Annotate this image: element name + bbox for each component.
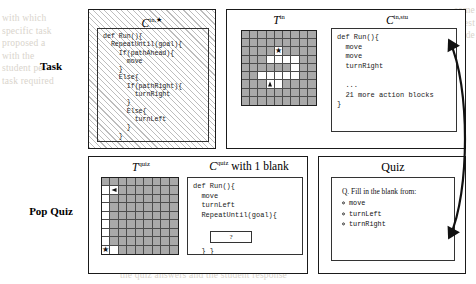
task-grid-cell[interactable] xyxy=(300,39,308,47)
quiz-grid-cell[interactable] xyxy=(170,229,178,237)
quiz-grid-cell[interactable] xyxy=(161,246,169,254)
task-grid-cell[interactable] xyxy=(291,39,299,47)
task-grid-cell[interactable] xyxy=(258,80,266,88)
quiz-grid-cell[interactable] xyxy=(161,203,169,211)
task-grid-cell[interactable] xyxy=(283,72,291,80)
task-grid-cell[interactable] xyxy=(267,72,275,80)
task-grid-cell[interactable] xyxy=(291,97,299,105)
task-grid-cell[interactable] xyxy=(275,80,283,88)
task-grid-cell[interactable] xyxy=(283,97,291,105)
task-grid-cell[interactable] xyxy=(242,31,250,39)
quiz-grid-cell[interactable] xyxy=(144,195,152,203)
quiz-grid-cell[interactable] xyxy=(119,195,127,203)
task-grid-cell[interactable] xyxy=(250,89,258,97)
task-grid-cell[interactable] xyxy=(267,31,275,39)
task-grid[interactable]: ★ xyxy=(241,30,317,106)
quiz-grid-cell[interactable] xyxy=(170,203,178,211)
task-grid-cell[interactable] xyxy=(250,64,258,72)
quiz-grid-cell[interactable] xyxy=(102,212,110,220)
task-grid-cell[interactable] xyxy=(300,31,308,39)
quiz-grid-cell[interactable] xyxy=(136,186,144,194)
quiz-grid-cell[interactable] xyxy=(153,237,161,245)
quiz-grid-cell[interactable] xyxy=(144,220,152,228)
task-grid-cell[interactable] xyxy=(250,56,258,64)
task-grid-cell[interactable] xyxy=(300,97,308,105)
quiz-grid-cell[interactable] xyxy=(136,237,144,245)
quiz-grid-cell[interactable] xyxy=(161,237,169,245)
quiz-grid-cell[interactable] xyxy=(153,178,161,186)
quiz-grid-cell[interactable] xyxy=(136,178,144,186)
task-grid-cell[interactable] xyxy=(275,72,283,80)
quiz-grid-cell[interactable] xyxy=(119,212,127,220)
radio-icon-move[interactable] xyxy=(342,202,345,205)
quiz-grid-cell[interactable] xyxy=(170,220,178,228)
task-grid-cell[interactable] xyxy=(258,47,266,55)
task-grid-cell[interactable] xyxy=(275,56,283,64)
task-grid-cell[interactable] xyxy=(267,56,275,64)
task-grid-cell[interactable] xyxy=(258,31,266,39)
quiz-grid-cell[interactable] xyxy=(110,220,118,228)
task-grid-cell[interactable] xyxy=(300,80,308,88)
task-grid-cell[interactable] xyxy=(267,89,275,97)
quiz-grid-cell[interactable] xyxy=(144,203,152,211)
task-grid-cell[interactable] xyxy=(291,64,299,72)
task-grid-cell[interactable] xyxy=(242,89,250,97)
task-grid-cell[interactable] xyxy=(308,31,316,39)
quiz-grid-cell[interactable] xyxy=(102,203,110,211)
quiz-grid-cell[interactable] xyxy=(144,212,152,220)
task-grid-cell[interactable] xyxy=(291,31,299,39)
quiz-grid-cell[interactable] xyxy=(110,178,118,186)
task-grid-cell[interactable]: ★ xyxy=(275,47,283,55)
quiz-grid-cell[interactable] xyxy=(127,237,135,245)
quiz-grid-cell[interactable] xyxy=(153,246,161,254)
quiz-grid-cell[interactable] xyxy=(110,203,118,211)
quiz-grid-cell[interactable] xyxy=(110,237,118,245)
quiz-grid-cell[interactable] xyxy=(136,203,144,211)
task-grid-cell[interactable] xyxy=(267,80,275,88)
task-grid-cell[interactable] xyxy=(291,89,299,97)
quiz-grid-cell[interactable] xyxy=(110,212,118,220)
radio-icon-turnright[interactable] xyxy=(342,223,345,226)
quiz-grid-cell[interactable] xyxy=(161,212,169,220)
task-grid-cell[interactable] xyxy=(283,47,291,55)
task-grid-cell[interactable] xyxy=(275,31,283,39)
quiz-grid-cell[interactable] xyxy=(153,203,161,211)
quiz-grid-cell[interactable] xyxy=(110,195,118,203)
quiz-grid-cell[interactable] xyxy=(144,178,152,186)
task-grid-cell[interactable] xyxy=(308,56,316,64)
quiz-grid[interactable]: ★ xyxy=(101,177,179,255)
task-grid-cell[interactable] xyxy=(242,64,250,72)
task-grid-cell[interactable] xyxy=(242,97,250,105)
task-grid-cell[interactable] xyxy=(283,80,291,88)
task-grid-cell[interactable] xyxy=(291,47,299,55)
quiz-grid-cell[interactable] xyxy=(110,229,118,237)
task-grid-cell[interactable] xyxy=(300,56,308,64)
quiz-option-turnright[interactable]: turnRight xyxy=(342,219,454,230)
task-grid-cell[interactable] xyxy=(308,64,316,72)
task-grid-cell[interactable] xyxy=(291,72,299,80)
quiz-grid-cell[interactable] xyxy=(153,212,161,220)
quiz-grid-cell[interactable] xyxy=(170,178,178,186)
quiz-grid-cell[interactable] xyxy=(136,246,144,254)
task-grid-cell[interactable] xyxy=(300,72,308,80)
task-grid-cell[interactable] xyxy=(283,89,291,97)
task-grid-cell[interactable] xyxy=(250,72,258,80)
radio-icon-turnleft[interactable] xyxy=(342,212,345,215)
task-grid-cell[interactable] xyxy=(308,47,316,55)
task-grid-cell[interactable] xyxy=(300,64,308,72)
task-grid-cell[interactable] xyxy=(291,56,299,64)
task-grid-cell[interactable] xyxy=(283,64,291,72)
task-grid-cell[interactable] xyxy=(250,39,258,47)
task-grid-cell[interactable] xyxy=(242,72,250,80)
task-grid-cell[interactable] xyxy=(275,64,283,72)
task-grid-cell[interactable] xyxy=(308,72,316,80)
quiz-option-move[interactable]: move xyxy=(342,198,454,209)
task-grid-cell[interactable] xyxy=(267,39,275,47)
quiz-grid-cell[interactable] xyxy=(110,186,118,194)
quiz-option-turnleft[interactable]: turnLeft xyxy=(342,209,454,220)
quiz-grid-cell[interactable] xyxy=(144,246,152,254)
quiz-grid-cell[interactable] xyxy=(102,178,110,186)
quiz-grid-cell[interactable] xyxy=(119,186,127,194)
quiz-grid-cell[interactable] xyxy=(127,212,135,220)
quiz-grid-cell[interactable] xyxy=(110,246,118,254)
